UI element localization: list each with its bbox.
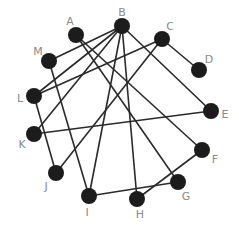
edge-A-F (76, 35, 202, 150)
edge-C-J (56, 39, 162, 173)
node-label-I: I (85, 207, 88, 218)
node-B (114, 18, 130, 34)
edge-K-E (34, 111, 211, 134)
nodes-layer (26, 18, 219, 207)
node-H (129, 191, 145, 207)
graph-diagram: ABCDEFGHIJKLM (0, 0, 239, 229)
node-label-B: B (118, 7, 126, 18)
node-label-D: D (205, 54, 213, 65)
edge-A-G (76, 35, 178, 182)
node-label-E: E (222, 109, 229, 120)
node-F (194, 142, 210, 158)
node-label-J: J (44, 181, 47, 192)
node-label-M: M (33, 46, 43, 57)
graph-canvas (0, 0, 239, 229)
node-C (154, 31, 170, 47)
node-label-A: A (66, 16, 74, 27)
node-label-L: L (17, 93, 23, 104)
node-label-F: F (212, 154, 218, 165)
edge-H-F (137, 150, 202, 199)
node-A (68, 27, 84, 43)
node-label-C: C (166, 21, 174, 32)
node-J (48, 165, 64, 181)
node-label-G: G (182, 191, 191, 202)
node-L (26, 88, 42, 104)
node-K (26, 126, 42, 142)
node-E (203, 103, 219, 119)
node-I (81, 188, 97, 204)
node-M (41, 53, 57, 69)
node-label-K: K (18, 139, 25, 150)
node-label-H: H (136, 209, 144, 220)
node-G (170, 174, 186, 190)
